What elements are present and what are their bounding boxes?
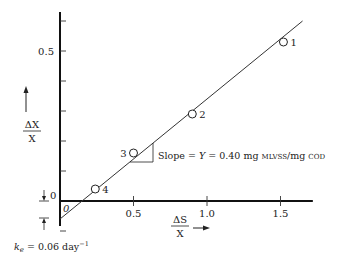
x-axis-arrowhead-icon: [203, 226, 210, 231]
y-zero-label: 0: [50, 190, 56, 201]
y-axis-arrowhead-icon: [24, 86, 29, 93]
y-axis-label-denominator: X: [28, 133, 36, 144]
x-axis-label-denominator: X: [176, 228, 184, 239]
data-point: [91, 185, 99, 193]
chart: 0.50.51.01.5 1234 ΔX X ΔS X 0 0 Slope = …: [0, 0, 342, 261]
ticks: 0.50.51.01.5: [38, 21, 288, 231]
data-point-label: 3: [120, 148, 126, 159]
slope-annotation: Slope = Y = 0.40 mg MLVSS/mg COD: [158, 150, 325, 161]
data-point: [279, 38, 287, 46]
ke-annotation: ke = 0.06 day−1: [14, 240, 89, 254]
data-point-label: 2: [199, 109, 205, 120]
intercept-arrowhead-down-icon: [42, 196, 46, 201]
data-point-label: 4: [102, 184, 108, 195]
x-tick-label: 0.5: [126, 208, 142, 219]
x-axis-label-numerator: ΔS: [173, 214, 187, 225]
x-tick-label: 1.0: [199, 208, 215, 219]
data-point: [130, 149, 138, 157]
data-point-label: 1: [290, 37, 296, 48]
origin-label: 0: [63, 203, 70, 214]
y-axis-label-numerator: ΔX: [25, 119, 40, 130]
points-group: 1234: [91, 37, 297, 195]
y-tick-label: 0.5: [38, 46, 54, 57]
x-tick-label: 1.5: [273, 208, 289, 219]
intercept-arrowhead-up-icon: [42, 218, 46, 223]
data-point: [188, 110, 196, 118]
